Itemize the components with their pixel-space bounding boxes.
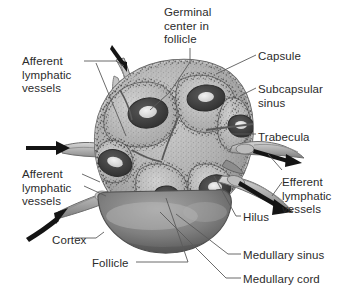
label-efferent-lymphatic-vessels: Efferent lymphatic vessels [282, 176, 331, 217]
label-germinal-center: Germinal center in follicle [164, 6, 211, 47]
label-subcapsular-sinus: Subcapsular sinus [258, 83, 323, 110]
medulla [96, 190, 232, 256]
label-hilus: Hilus [243, 211, 269, 225]
label-afferent-lymphatic-vessels-top: Afferent lymphatic vessels [22, 55, 71, 96]
label-trabecula: Trabecula [258, 131, 310, 145]
label-medullary-cord: Medullary cord [243, 273, 320, 287]
label-afferent-lymphatic-vessels-bottom: Afferent lymphatic vessels [22, 168, 71, 209]
label-cortex: Cortex [52, 234, 86, 248]
label-medullary-sinus: Medullary sinus [243, 249, 324, 263]
lymph-node-body [95, 59, 256, 256]
label-follicle: Follicle [92, 257, 129, 271]
label-capsule: Capsule [258, 50, 301, 64]
